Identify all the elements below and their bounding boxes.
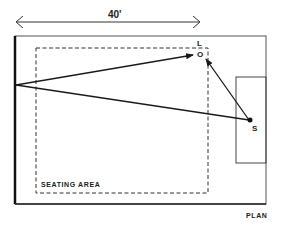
label-O: O bbox=[197, 50, 203, 59]
room-outline bbox=[15, 36, 266, 204]
seating-area-outline bbox=[36, 48, 208, 193]
ray-to-rear-wall bbox=[16, 85, 249, 120]
source-point bbox=[248, 118, 253, 123]
direct-ray bbox=[206, 59, 249, 120]
label-L: L bbox=[197, 39, 202, 48]
seating-area-label: SEATING AREA bbox=[41, 181, 100, 188]
plan-label: PLAN bbox=[246, 212, 267, 219]
floor-plan-diagram: 40' L O S SEATING AREA PLAN bbox=[0, 0, 282, 226]
dimension-label: 40' bbox=[108, 9, 122, 20]
label-S: S bbox=[252, 124, 258, 133]
reflected-ray-to-listener bbox=[16, 55, 193, 85]
